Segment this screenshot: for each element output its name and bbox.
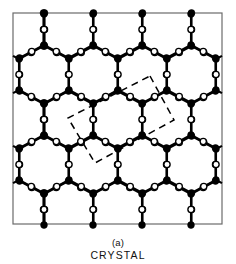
network-atom [188, 100, 195, 107]
bridging-atom [78, 183, 84, 189]
bridging-atom [188, 26, 194, 32]
bridging-atom [29, 48, 35, 54]
bridging-atom [53, 48, 59, 54]
panel-label: (a) [0, 237, 236, 249]
network-atom [188, 10, 195, 17]
network-atom [66, 177, 73, 184]
network-atom [188, 190, 195, 197]
network-atom [114, 145, 121, 152]
network-atom [188, 42, 195, 49]
network-atom [188, 222, 195, 229]
figure-caption: (a) CRYSTAL [0, 237, 236, 262]
network-atom [41, 10, 48, 17]
bridging-atom [127, 138, 133, 144]
bridging-atom [28, 93, 34, 99]
bridging-atom [176, 138, 182, 144]
network-atom [16, 55, 23, 62]
network-atom [66, 87, 73, 94]
bridging-atom [127, 93, 133, 99]
network-atom [90, 100, 97, 107]
bridging-atom [54, 93, 60, 99]
network-atom [114, 55, 121, 62]
bridging-atom [41, 206, 47, 212]
bridging-atom [151, 48, 157, 54]
bridging-atom [90, 116, 96, 122]
network-atom [16, 145, 23, 152]
bridging-atom [29, 138, 35, 144]
bridging-atom [151, 138, 157, 144]
bridging-atom [90, 206, 96, 212]
bridging-atom [213, 161, 219, 167]
bridging-atom [115, 161, 121, 167]
network-atom [90, 42, 97, 49]
network-atom [65, 55, 72, 62]
network-atom [90, 10, 97, 17]
bridging-atom [127, 48, 133, 54]
bridging-atom [201, 183, 207, 189]
bridging-atom [78, 93, 84, 99]
bridging-atom [213, 71, 219, 77]
bridging-atom [127, 183, 133, 189]
network-atom [164, 87, 171, 94]
bridging-atom [28, 183, 34, 189]
bridging-atom [200, 138, 206, 144]
network-atom [16, 87, 23, 94]
bridging-atom [152, 183, 158, 189]
bridging-atom [16, 161, 22, 167]
network-atom [65, 145, 72, 152]
bridging-atom [164, 71, 170, 77]
network-atom [212, 145, 219, 152]
bridging-atom [188, 206, 194, 212]
network-atom [163, 55, 170, 62]
bridging-atom [102, 48, 108, 54]
network-atom [139, 10, 146, 17]
network-atom [16, 177, 23, 184]
network-atom [41, 100, 48, 107]
network-atom [90, 132, 97, 139]
network-atom [115, 177, 122, 184]
network-atom [163, 145, 170, 152]
bridging-atom [164, 161, 170, 167]
network-atom [90, 222, 97, 229]
network-atom [139, 132, 146, 139]
figure-root: (a) CRYSTAL [0, 0, 236, 264]
figure-title: CRYSTAL [0, 249, 236, 262]
network-atom [41, 42, 48, 49]
network-atom [90, 190, 97, 197]
bridging-atom [176, 93, 182, 99]
bridging-atom [66, 161, 72, 167]
network-atom [139, 100, 146, 107]
bridging-atom [139, 26, 145, 32]
bridging-atom [41, 116, 47, 122]
bridging-atom [102, 138, 108, 144]
network-atom [139, 42, 146, 49]
bridging-atom [176, 48, 182, 54]
network-atom [41, 190, 48, 197]
bridging-atom [152, 93, 158, 99]
bridging-atom [16, 71, 22, 77]
bridging-atom [201, 93, 207, 99]
bridging-atom [53, 138, 59, 144]
network-atom [139, 222, 146, 229]
bridging-atom [200, 48, 206, 54]
bridging-atom [139, 116, 145, 122]
bridging-atom [188, 116, 194, 122]
network-atom [139, 190, 146, 197]
network-atom [213, 87, 220, 94]
bridging-atom [66, 71, 72, 77]
network-atom [115, 87, 122, 94]
network-atom [213, 177, 220, 184]
bridging-atom [78, 138, 84, 144]
network-atom [188, 132, 195, 139]
bridging-atom [103, 183, 109, 189]
bridging-atom [103, 93, 109, 99]
bridging-atom [41, 26, 47, 32]
network-atom [164, 177, 171, 184]
network-atom [212, 55, 219, 62]
bridging-atom [115, 71, 121, 77]
bridging-atom [176, 183, 182, 189]
bridging-atom [90, 26, 96, 32]
crystal-lattice-diagram [0, 0, 236, 264]
bridging-atom [139, 206, 145, 212]
bridging-atom [78, 48, 84, 54]
